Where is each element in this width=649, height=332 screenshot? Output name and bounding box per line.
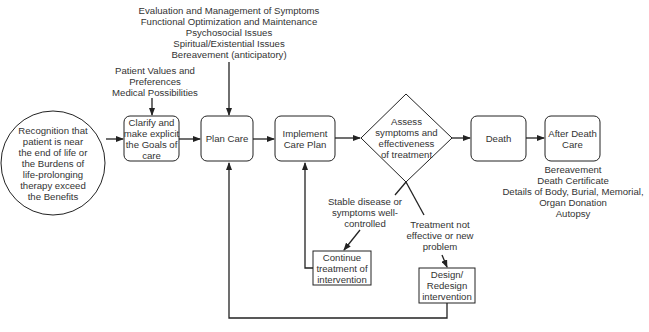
clarify-text: care <box>124 150 179 161</box>
redesign-text: Design/ <box>422 269 472 280</box>
after-death-note: Details of Body, Burial, Memorial, <box>502 186 644 197</box>
start-text: Recognition that <box>18 125 87 136</box>
after-death-text: After Death <box>548 128 597 139</box>
not-effective-label-line: Treatment not <box>400 219 480 230</box>
start-text: the end of life or <box>18 147 87 158</box>
start-text: life-prolonging <box>18 169 87 180</box>
start-node: Recognition that patient is near the end… <box>5 115 101 211</box>
assess-node: Assess symptoms and effectiveness of tre… <box>361 94 452 182</box>
after-death-note: Autopsy <box>502 208 644 219</box>
not-effective-label-line: effective or new <box>400 230 480 241</box>
clarify-text: the Goals of <box>124 139 179 150</box>
assess-text: symptoms and <box>375 127 437 138</box>
plan-input-line: Evaluation and Management of Symptoms <box>129 5 329 16</box>
after-death-text: Care <box>548 139 597 150</box>
plan-care-node: Plan Care <box>201 116 253 161</box>
stable-label-line: controlled <box>325 218 405 229</box>
redesign-text: Redesign <box>422 280 472 291</box>
stable-branch-label: Stable disease or symptoms well- control… <box>325 196 405 229</box>
plan-input-line: Spiritual/Existential Issues <box>129 38 329 49</box>
not-effective-label-line: problem <box>400 241 480 252</box>
stable-label-line: Stable disease or <box>325 196 405 207</box>
start-text: patient is near <box>18 136 87 147</box>
death-text: Death <box>486 133 512 144</box>
clarify-goals-node: Clarify and make explicit the Goals of c… <box>124 116 179 161</box>
plan-input-line: Bereavement (anticipatory) <box>129 49 329 60</box>
stable-label-line: symptoms well- <box>325 207 405 218</box>
implement-text: Implement <box>283 128 328 139</box>
clarify-text: Clarify and <box>124 117 179 128</box>
start-text: the Benefits <box>18 191 87 202</box>
redesign-text: intervention <box>422 291 472 302</box>
continue-text: intervention <box>316 274 367 285</box>
assess-text: of treatment <box>375 149 437 160</box>
after-death-note: Bereavement <box>502 164 644 175</box>
goals-input-line: Medical Possibilities <box>100 87 210 98</box>
after-death-care-node: After Death Care <box>545 116 600 161</box>
clarify-text: make explicit <box>124 128 179 139</box>
plan-care-text: Plan Care <box>206 133 249 144</box>
goals-input-line: Preferences <box>100 76 210 87</box>
death-node: Death <box>471 116 526 161</box>
start-text: the Burdens of <box>18 158 87 169</box>
goals-input-line: Patient Values and <box>100 65 210 76</box>
plan-input-line: Psychosocial Issues <box>129 27 329 38</box>
assess-text: Assess <box>375 116 437 127</box>
after-death-notes: Bereavement Death Certificate Details of… <box>502 164 644 219</box>
continue-text: Continue <box>316 252 367 263</box>
start-text: therapy exceed <box>18 180 87 191</box>
after-death-note: Death Certificate <box>502 175 644 186</box>
assess-text: effectiveness <box>375 138 437 149</box>
plan-inputs-label: Evaluation and Management of Symptoms Fu… <box>129 5 329 60</box>
implement-text: Care Plan <box>283 139 328 150</box>
continue-text: treatment of <box>316 263 367 274</box>
plan-input-line: Functional Optimization and Maintenance <box>129 16 329 27</box>
implement-care-plan-node: Implement Care Plan <box>275 116 335 161</box>
goals-inputs-label: Patient Values and Preferences Medical P… <box>100 65 210 98</box>
not-effective-branch-label: Treatment not effective or new problem <box>400 219 480 252</box>
after-death-note: Organ Donation <box>502 197 644 208</box>
continue-treatment-node: Continue treatment of intervention <box>313 251 371 285</box>
redesign-intervention-node: Design/ Redesign intervention <box>419 268 475 303</box>
